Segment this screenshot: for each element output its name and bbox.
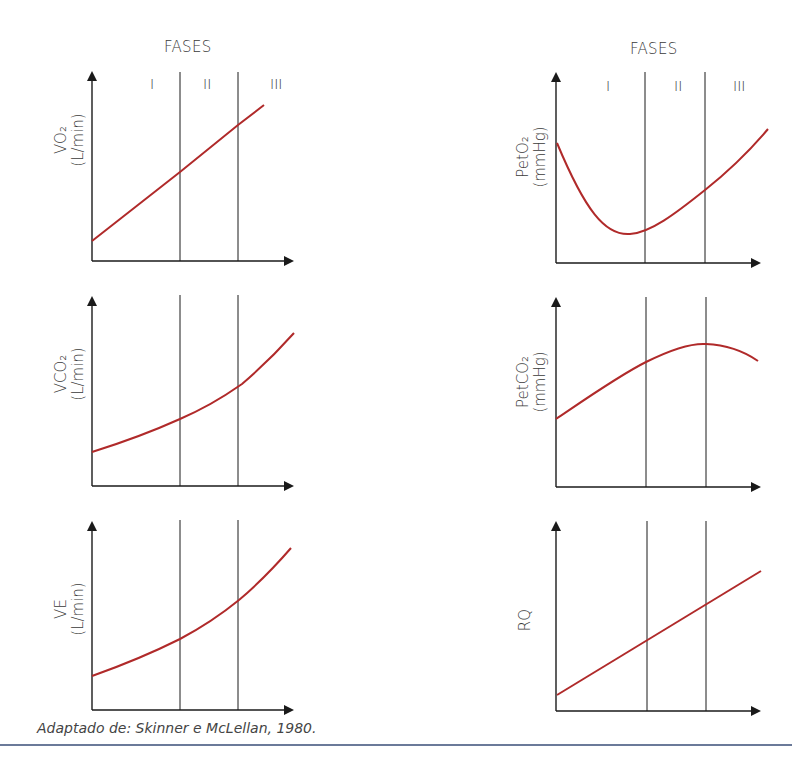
ylabel-rq-line1: RQ (517, 580, 534, 660)
chart-rq (556, 521, 761, 711)
phase-label-i-left: I (150, 76, 154, 92)
ylabel-peto2-line1: PetO₂ (515, 102, 532, 212)
ylabel-vco2-line1: VCO₂ (53, 324, 70, 424)
curve-vco2 (92, 333, 294, 452)
chart-vo2 (92, 72, 292, 261)
ylabel-ve-line1: VE (53, 559, 70, 659)
chart-ve (92, 520, 292, 710)
chart-vco2 (92, 295, 294, 486)
curve-rq (557, 571, 761, 695)
curve-ve (92, 548, 291, 676)
phase-header-right: FASES (630, 40, 678, 58)
phase-label-iii-left: III (270, 76, 282, 92)
ylabel-vco2-line2: (L/min) (70, 324, 87, 424)
phase-label-i-right: I (606, 78, 610, 94)
source-caption: Adaptado de: Skinner e McLellan, 1980. (37, 720, 316, 736)
curve-petco2 (556, 344, 758, 419)
figure-canvas (0, 0, 792, 777)
phase-label-ii-right: II (674, 78, 682, 94)
phase-header-left: FASES (164, 38, 212, 56)
ylabel-ve-line2: (L/min) (70, 559, 87, 659)
phase-label-iii-right: III (733, 78, 745, 94)
ylabel-ve: VE (L/min) (53, 559, 87, 659)
ylabel-petco2: PetCO₂ (mmHg) (515, 327, 549, 437)
curve-peto2 (557, 129, 768, 234)
ylabel-vco2: VCO₂ (L/min) (53, 324, 87, 424)
chart-peto2 (556, 72, 768, 263)
ylabel-peto2: PetO₂ (mmHg) (515, 102, 549, 212)
ylabel-petco2-line1: PetCO₂ (515, 327, 532, 437)
ylabel-vo2-line2: (L/min) (70, 90, 87, 190)
bottom-rule (0, 744, 792, 746)
ylabel-rq: RQ (517, 580, 537, 660)
ylabel-vo2-line1: VO₂ (53, 90, 70, 190)
ylabel-vo2: VO₂ (L/min) (53, 90, 87, 190)
chart-petco2 (556, 297, 759, 487)
phase-label-ii-left: II (203, 76, 211, 92)
ylabel-peto2-line2: (mmHg) (532, 102, 549, 212)
ylabel-petco2-line2: (mmHg) (532, 327, 549, 437)
